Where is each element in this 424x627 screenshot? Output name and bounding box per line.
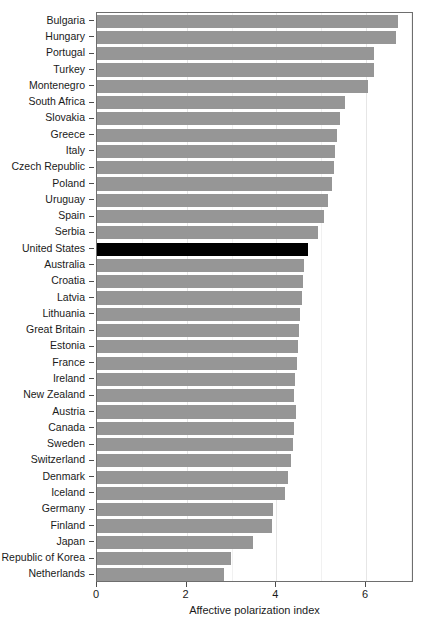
y-axis-tick-mark [89, 525, 94, 526]
x-axis-tick-mark [365, 582, 366, 587]
bar [97, 243, 308, 256]
bar-row [97, 210, 413, 223]
bar [97, 15, 398, 28]
y-axis-tick-label: Denmark [42, 471, 85, 482]
bar-row [97, 47, 413, 60]
y-axis-tick-mark [89, 150, 94, 151]
y-axis-tick-mark [89, 346, 94, 347]
bar [97, 405, 296, 418]
bar [97, 324, 299, 337]
bar [97, 194, 328, 207]
bar-row [97, 259, 413, 272]
bar [97, 308, 300, 321]
y-axis-tick-label: Slovakia [45, 112, 85, 123]
y-axis-tick-label: New Zealand [23, 389, 85, 400]
bar [97, 519, 272, 532]
y-axis-tick-mark [89, 460, 94, 461]
bar [97, 275, 303, 288]
y-axis-tick-mark [89, 248, 94, 249]
bar [97, 145, 335, 158]
bar-row [97, 177, 413, 190]
y-axis-tick-mark [89, 118, 94, 119]
bar-row [97, 161, 413, 174]
bar [97, 210, 324, 223]
bar-row [97, 422, 413, 435]
y-axis-tick-label: Montenegro [29, 80, 85, 91]
bar-row [97, 536, 413, 549]
y-axis-tick-mark [89, 36, 94, 37]
bar-row [97, 129, 413, 142]
bar [97, 226, 318, 239]
y-axis-tick-mark [89, 232, 94, 233]
y-axis-tick-label: Latvia [57, 292, 85, 303]
bar-row [97, 471, 413, 484]
y-axis-tick-label: South Africa [28, 96, 85, 107]
bar-row [97, 373, 413, 386]
y-axis-tick-mark [89, 541, 94, 542]
y-axis-tick-label: Uruguay [45, 194, 85, 205]
y-axis-tick-label: Lithuania [42, 308, 85, 319]
bar-row [97, 194, 413, 207]
y-axis-tick-mark [89, 183, 94, 184]
bar-row [97, 405, 413, 418]
y-axis-tick-label: Austria [52, 406, 85, 417]
y-axis-tick-label: Czech Republic [11, 161, 85, 172]
bar-row [97, 112, 413, 125]
bar [97, 454, 291, 467]
bar [97, 96, 345, 109]
bar [97, 259, 304, 272]
y-axis-tick-label: Spain [58, 210, 85, 221]
bar-row [97, 275, 413, 288]
bar [97, 487, 285, 500]
bar [97, 129, 337, 142]
y-axis-tick-mark [89, 102, 94, 103]
bar [97, 47, 374, 60]
bar-row [97, 503, 413, 516]
bar [97, 63, 374, 76]
y-axis-tick-mark [89, 427, 94, 428]
bar [97, 552, 231, 565]
y-axis-tick-mark [89, 264, 94, 265]
bar-row [97, 519, 413, 532]
y-axis-tick-mark [89, 411, 94, 412]
y-axis-tick-mark [89, 313, 94, 314]
y-axis-tick-label: Netherlands [28, 568, 85, 579]
plot-panel [96, 12, 413, 582]
y-axis-tick-mark [89, 199, 94, 200]
x-axis-tick-label: 0 [93, 588, 99, 601]
y-axis-tick-mark [89, 69, 94, 70]
y-axis-tick-mark [89, 53, 94, 54]
y-axis-tick-label: Canada [48, 422, 85, 433]
x-axis-tick-mark [96, 582, 97, 587]
bar [97, 373, 295, 386]
y-axis-tick-mark [89, 297, 94, 298]
y-axis-tick-mark [89, 444, 94, 445]
y-axis-tick-label: Japan [56, 536, 85, 547]
bar-row [97, 389, 413, 402]
bar [97, 291, 302, 304]
y-axis-tick-label: Bulgaria [46, 15, 85, 26]
x-axis-tick-mark [275, 582, 276, 587]
bar [97, 161, 334, 174]
bar-row [97, 340, 413, 353]
y-axis-tick-label: United States [22, 243, 85, 254]
y-axis-tick-mark [89, 362, 94, 363]
bar-row [97, 324, 413, 337]
y-axis-tick-label: Croatia [51, 275, 85, 286]
bar-row [97, 243, 413, 256]
y-axis-tick-label: Switzerland [31, 454, 85, 465]
y-axis-tick-label: Republic of Korea [2, 552, 85, 563]
x-axis-tick-mark [186, 582, 187, 587]
y-axis-tick-label: Ireland [53, 373, 85, 384]
bar-row [97, 15, 413, 28]
bar-row [97, 438, 413, 451]
bar [97, 80, 368, 93]
bar-row [97, 31, 413, 44]
bar-row [97, 308, 413, 321]
bar [97, 568, 224, 581]
bar-row [97, 454, 413, 467]
y-axis-tick-mark [89, 216, 94, 217]
bar [97, 340, 298, 353]
y-axis-tick-mark [89, 85, 94, 86]
bar-row [97, 487, 413, 500]
